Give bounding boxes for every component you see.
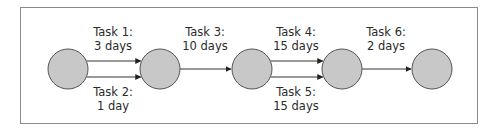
task-1-name: Task 1: (73, 25, 153, 39)
event-node-5 (412, 49, 452, 89)
event-node-1 (48, 49, 88, 89)
task-4-duration: 15 days (256, 39, 336, 53)
task-2-duration: 1 day (73, 99, 153, 113)
task-3-name: Task 3: (165, 25, 245, 39)
task-1-duration: 3 days (73, 39, 153, 53)
task-6-duration: 2 days (346, 39, 426, 53)
task-6-name: Task 6: (346, 25, 426, 39)
task-3-label: Task 3: 10 days (165, 25, 245, 53)
task-3-duration: 10 days (165, 39, 245, 53)
event-node-2 (140, 49, 180, 89)
task-network-diagram: Task 1: 3 days Task 2: 1 day Task 3: 10 … (0, 0, 494, 131)
task-5-duration: 15 days (256, 99, 336, 113)
task-4-label: Task 4: 15 days (256, 25, 336, 53)
event-node-3 (232, 49, 272, 89)
event-node-4 (322, 49, 362, 89)
task-1-label: Task 1: 3 days (73, 25, 153, 53)
task-4-name: Task 4: (256, 25, 336, 39)
task-2-name: Task 2: (73, 85, 153, 99)
task-6-label: Task 6: 2 days (346, 25, 426, 53)
task-5-name: Task 5: (256, 85, 336, 99)
task-5-label: Task 5: 15 days (256, 85, 336, 113)
task-2-label: Task 2: 1 day (73, 85, 153, 113)
